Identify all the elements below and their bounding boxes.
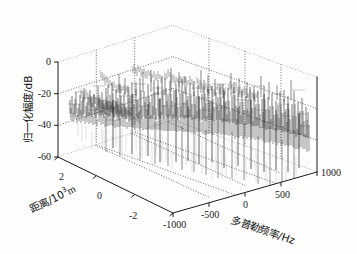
ytick-label-0: 0 — [97, 191, 102, 201]
figure-canvas: 0 -20 -40 -60 2 0 -2 -1000 -500 0 500 10… — [0, 0, 357, 254]
mesh-surface — [68, 64, 310, 192]
xtick-label-m500: -500 — [201, 210, 219, 220]
ztick-label-0: 0 — [39, 57, 51, 67]
plot-3d-axes — [0, 0, 357, 254]
back-right-wall — [173, 25, 317, 172]
xtick-label-0: 0 — [243, 200, 248, 210]
z-axis-title: 归一化幅度/dB — [23, 61, 34, 157]
ytick-label-m2: -2 — [129, 211, 137, 221]
ytick-label-2: 2 — [59, 172, 64, 182]
xtick-label-1000: 1000 — [321, 168, 341, 178]
y-axis-line — [58, 157, 173, 213]
back-left-wall — [58, 25, 173, 157]
xtick-label-500: 500 — [275, 190, 290, 200]
xtick-label-m1000: -1000 — [163, 220, 186, 230]
